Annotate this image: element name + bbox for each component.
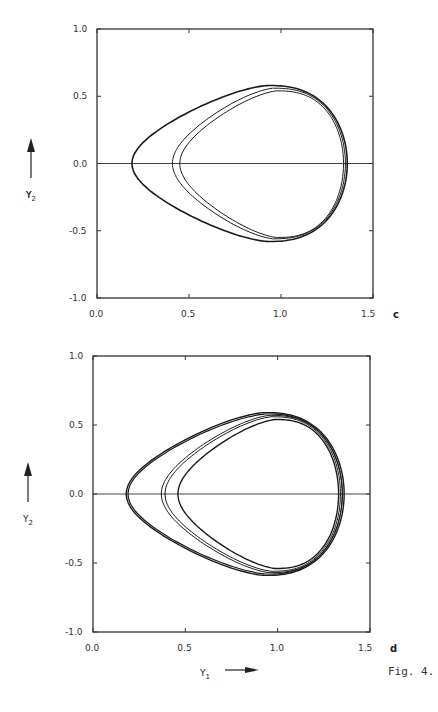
panel-letter: c bbox=[393, 309, 399, 320]
orbit-curve bbox=[180, 91, 344, 238]
y-tick-label: 0.5 bbox=[73, 91, 87, 101]
y-tick-label: 1.0 bbox=[73, 24, 88, 34]
y-tick-label: 0.0 bbox=[69, 489, 84, 499]
arrow-up-icon bbox=[24, 462, 32, 476]
x-axis-arrow bbox=[225, 667, 259, 673]
x-tick-label: 1.0 bbox=[270, 643, 285, 653]
figure-canvas: 0.00.51.01.51.00.50.0-0.5-1.0cY2 0.00.51… bbox=[0, 0, 438, 712]
x-tick-label: 0.0 bbox=[89, 309, 104, 319]
y-tick-label: 1.0 bbox=[69, 351, 84, 361]
y-axis-arrow-bottom bbox=[24, 462, 32, 502]
y-tick-label: -1.0 bbox=[69, 293, 87, 303]
x-tick-label: 1.5 bbox=[358, 643, 372, 653]
x-tick-label: 1.0 bbox=[273, 309, 288, 319]
arrow-right-icon bbox=[245, 667, 259, 673]
arrow-up-icon bbox=[27, 138, 35, 152]
x-tick-label: 0.0 bbox=[85, 643, 100, 653]
y-axis-label: Y2 bbox=[22, 514, 33, 527]
y-tick-label: 0.5 bbox=[69, 420, 83, 430]
x-tick-label: 0.5 bbox=[177, 643, 191, 653]
x-tick-label: 0.5 bbox=[181, 309, 195, 319]
x-tick-label: 1.5 bbox=[361, 309, 375, 319]
y-tick-label: -0.5 bbox=[65, 558, 83, 568]
y-tick-label: 0.0 bbox=[73, 159, 88, 169]
y-axis-arrow-top bbox=[27, 138, 35, 178]
y-tick-label: -0.5 bbox=[69, 226, 87, 236]
panel-c-plot: 0.00.51.01.51.00.50.0-0.5-1.0cY2 bbox=[25, 24, 399, 320]
y-tick-label: -1.0 bbox=[65, 627, 83, 637]
panel-d-plot: 0.00.51.01.51.00.50.0-0.5-1.0dY2Y1 bbox=[22, 351, 397, 681]
panel-letter: d bbox=[390, 643, 397, 654]
y-axis-label-top: Y bbox=[25, 190, 32, 200]
x-axis-label: Y1 bbox=[199, 668, 210, 681]
figure-caption: Fig. 4. bbox=[388, 665, 434, 678]
